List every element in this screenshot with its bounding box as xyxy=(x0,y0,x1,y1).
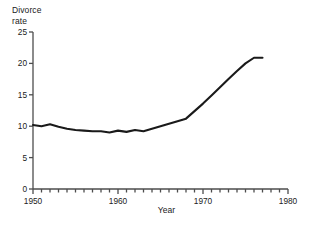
svg-text:15: 15 xyxy=(18,90,28,100)
svg-text:25: 25 xyxy=(18,27,28,37)
y-axis-ticks: 0510152025 xyxy=(18,27,33,194)
chart-canvas: 0510152025 1950196019701980 xyxy=(0,0,309,226)
svg-text:5: 5 xyxy=(22,153,27,163)
divorce-rate-chart: Divorce rate 0510152025 1950196019701980… xyxy=(0,0,309,226)
x-axis-title: Year xyxy=(0,205,309,215)
divorce-rate-line xyxy=(33,58,263,133)
x-axis-title-label: Year xyxy=(134,205,176,215)
svg-text:10: 10 xyxy=(18,121,28,131)
svg-text:0: 0 xyxy=(22,184,27,194)
svg-text:20: 20 xyxy=(18,58,28,68)
x-axis-ticks: 1950196019701980 xyxy=(24,189,298,206)
